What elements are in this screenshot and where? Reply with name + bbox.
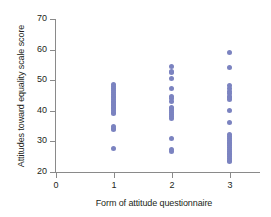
x-tick-mark — [172, 173, 173, 178]
scatter-plot-figure: Attitudes toward equality scale score 20… — [0, 0, 271, 217]
y-tick: 30 — [50, 141, 55, 142]
y-tick-mark — [50, 50, 55, 51]
y-tick: 20 — [50, 172, 55, 173]
x-tick-label: 2 — [162, 180, 182, 190]
y-tick-mark — [50, 19, 55, 20]
x-tick-label: 0 — [46, 180, 66, 190]
y-axis-title: Attitudes toward equality scale score — [14, 6, 28, 186]
y-tick-mark — [50, 111, 55, 112]
y-tick-label: 30 — [37, 135, 47, 145]
y-tick-label: 70 — [37, 13, 47, 23]
x-axis-title: Form of attitude questionnaire — [44, 198, 264, 208]
y-tick-mark — [50, 172, 55, 173]
y-tick-label: 40 — [37, 105, 47, 115]
x-tick-label: 3 — [220, 180, 240, 190]
y-tick: 70 — [50, 19, 55, 20]
y-tick-label: 60 — [37, 44, 47, 54]
y-tick-mark — [50, 80, 55, 81]
y-tick-mark — [50, 141, 55, 142]
x-tick-mark — [230, 173, 231, 178]
y-tick: 50 — [50, 80, 55, 81]
y-tick: 40 — [50, 111, 55, 112]
plot-area — [56, 19, 256, 172]
x-tick-mark — [56, 173, 57, 178]
y-tick-label: 50 — [37, 74, 47, 84]
y-tick-label: 20 — [37, 166, 47, 176]
x-tick-label: 1 — [104, 180, 124, 190]
x-tick-mark — [114, 173, 115, 178]
y-tick: 60 — [50, 50, 55, 51]
